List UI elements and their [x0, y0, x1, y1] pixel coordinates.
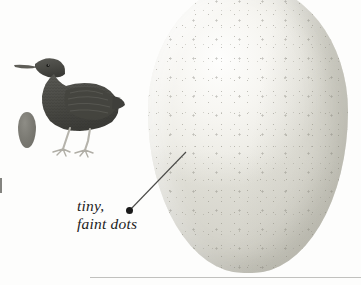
bird-eye-highlight — [48, 65, 49, 66]
annotation-line-2: faint dots — [77, 215, 137, 233]
bird-illustration — [8, 48, 126, 158]
annotation-caption: tiny, faint dots — [77, 197, 137, 233]
bird-eye — [46, 64, 49, 67]
bird-head — [35, 58, 65, 77]
illustration-page: tiny, faint dots — [0, 0, 361, 285]
bird-bill — [14, 65, 38, 69]
page-rule — [90, 277, 361, 278]
large-egg — [148, 0, 348, 273]
bird-tail — [112, 96, 125, 109]
bird-legs — [63, 128, 90, 150]
bird-feet — [53, 149, 93, 157]
page-edge-mark — [0, 178, 2, 193]
annotation-line-1: tiny, — [77, 197, 137, 215]
large-egg-bottom-shading — [148, 0, 348, 273]
